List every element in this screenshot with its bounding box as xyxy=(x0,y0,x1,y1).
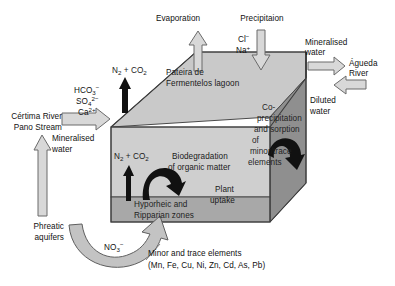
diagram-canvas: Evaporation Precipitaion Cl− Na+ Mineral… xyxy=(0,0,395,286)
coprecipitation-label-line4: of xyxy=(252,136,259,146)
cl-charge: − xyxy=(246,33,250,40)
plant-uptake-label-line2: uptake xyxy=(210,196,235,206)
mineralised-water-right-label-line1: Mineralised xyxy=(305,38,347,48)
no3-symbol: NO xyxy=(104,243,116,252)
mineralised-water-left-label-line1: Mineralised xyxy=(52,134,94,144)
mineralised-water-upflow-arrow xyxy=(34,135,51,216)
coprecipitation-label-line6: elements xyxy=(248,158,282,168)
na-symbol: Na xyxy=(236,46,247,55)
calcium-ion: Ca2+ xyxy=(78,105,96,118)
co2-sub: 2 xyxy=(143,69,147,76)
phreatic-aquifers-label-line2: aquifers xyxy=(0,233,64,243)
plant-uptake-label-line1: Plant xyxy=(215,185,234,195)
agueda-river-label-line2: River xyxy=(349,69,368,79)
ca-charge: 2+ xyxy=(89,106,96,113)
plus-sign-2: + xyxy=(123,152,132,161)
phreatic-aquifers-label-line1: Phreatic xyxy=(0,222,64,232)
mineralised-water-outflow-arrow xyxy=(308,57,345,75)
coprecipitation-label-line3: and sorption xyxy=(254,125,300,135)
degassing-label-top: N2 + CO2 xyxy=(112,66,147,78)
diluted-water-label-line1: Diluted xyxy=(310,96,336,106)
lagoon-name-line1: Pateira de xyxy=(166,68,204,78)
evaporation-label: Evaporation xyxy=(138,14,218,24)
mineralised-water-right-label-line2: water xyxy=(305,48,325,58)
ca-symbol: Ca xyxy=(78,108,89,117)
so4-charge: 2− xyxy=(91,95,98,102)
certima-river-label-line2: Pano Stream xyxy=(0,123,62,133)
lagoon-name-line2: Fermentelos lagoon xyxy=(166,79,239,89)
coprecipitation-label-line2: precipitation xyxy=(257,114,302,124)
agueda-river-label-line1: Águeda xyxy=(349,59,378,69)
coprecipitation-label-line5: minor/trace xyxy=(250,147,292,157)
plus-sign: + xyxy=(121,66,130,75)
nitrate-ion: NO3− xyxy=(104,240,124,255)
precip-sodium-ion: Na+ xyxy=(236,43,250,56)
precipitation-label: Precipitaion xyxy=(222,14,302,24)
biodegradation-label-line1: Biodegradation xyxy=(172,152,228,162)
coprecipitation-label-line1: Co- xyxy=(262,103,275,113)
no3-charge: − xyxy=(120,241,124,248)
hco3-charge: − xyxy=(96,84,100,91)
co2-sub-2: 2 xyxy=(145,155,149,162)
co2-symbol-2: CO xyxy=(133,152,145,161)
degassing-arrow-top xyxy=(119,77,131,113)
mineralised-water-left-label-line2: water xyxy=(52,145,72,155)
biodegradation-label-line2: of organic matter xyxy=(168,163,230,173)
caption-line2: (Mn, Fe, Cu, Ni, Zn, Cd, As, Pb) xyxy=(148,261,265,271)
na-charge: + xyxy=(247,44,251,51)
co2-symbol: CO xyxy=(131,66,143,75)
hyporheic-zone-label-line2: Ripparian zones xyxy=(134,211,194,221)
caption-line1: Minor and trace elements xyxy=(148,249,242,259)
degassing-label-front: N2 + CO2 xyxy=(114,152,149,164)
diluted-water-label-line2: water xyxy=(310,107,330,117)
hyporheic-zone-label-line1: Hyporheic and xyxy=(134,200,187,210)
certima-river-label-line1: Cértima River xyxy=(0,112,62,122)
